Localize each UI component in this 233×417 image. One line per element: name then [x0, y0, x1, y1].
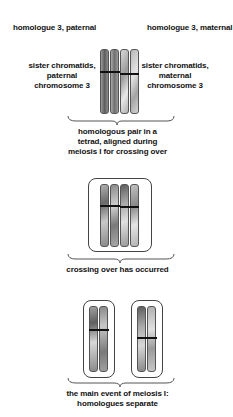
- label-line: meiosis I for crossing over: [55, 147, 180, 157]
- label-homologue-maternal: homologue 3, maternal: [147, 23, 232, 33]
- label-homologue-paternal: homologue 3, paternal: [13, 23, 96, 33]
- homologue-left: [89, 306, 109, 372]
- label-line: tetrad, aligned during: [55, 137, 180, 147]
- label-sister-paternal: sister chromatids, paternal chromosome 3: [27, 61, 97, 91]
- homologue-right: [137, 306, 157, 372]
- chromatid-right-1: [137, 306, 146, 372]
- label-line: the main event of meiosis I:: [55, 389, 180, 399]
- tetrad-stage2: [100, 184, 140, 247]
- centromere-left: [89, 329, 109, 331]
- chromatid-left-1: [89, 306, 98, 372]
- centromere-right: [120, 206, 139, 208]
- label-line: homologous pair in a: [55, 127, 180, 137]
- chromatid-maternal-1: [120, 49, 129, 114]
- tetrad-stage1: [100, 49, 140, 114]
- label-line: paternal: [27, 71, 97, 81]
- chromatid-2: [110, 184, 119, 247]
- centromere-paternal: [100, 71, 120, 73]
- chromatid-left-2: [99, 306, 108, 372]
- chromatid-right-2: [147, 306, 156, 372]
- chromatid-4: [130, 184, 139, 247]
- label-line: chromosome 3: [27, 81, 97, 91]
- chromatid-maternal-2: [130, 49, 139, 114]
- centromere-right: [137, 337, 157, 339]
- label-sister-maternal: sister chromatids, maternal chromosome 3: [140, 61, 210, 91]
- label-line: sister chromatids,: [27, 61, 97, 71]
- label-line: chromosome 3: [140, 81, 210, 91]
- label-stage2: crossing over has occurred: [55, 265, 180, 275]
- label-line: sister chromatids,: [140, 61, 210, 71]
- chromatid-paternal-1: [100, 49, 109, 114]
- chromatid-paternal-2: [110, 49, 119, 114]
- chromatid-3: [120, 184, 129, 247]
- label-line: maternal: [140, 71, 210, 81]
- label-line: crossing over has occurred: [55, 265, 180, 275]
- label-stage3: the main event of meiosis I: homologues …: [55, 389, 180, 409]
- chromatid-1: [100, 184, 109, 247]
- centromere-left: [100, 205, 120, 207]
- centromere-maternal: [120, 73, 139, 75]
- label-stage1: homologous pair in a tetrad, aligned dur…: [55, 127, 180, 157]
- label-line: homologues separate: [55, 399, 180, 409]
